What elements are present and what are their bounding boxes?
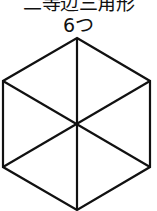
hexagon-diagram [0,0,157,211]
